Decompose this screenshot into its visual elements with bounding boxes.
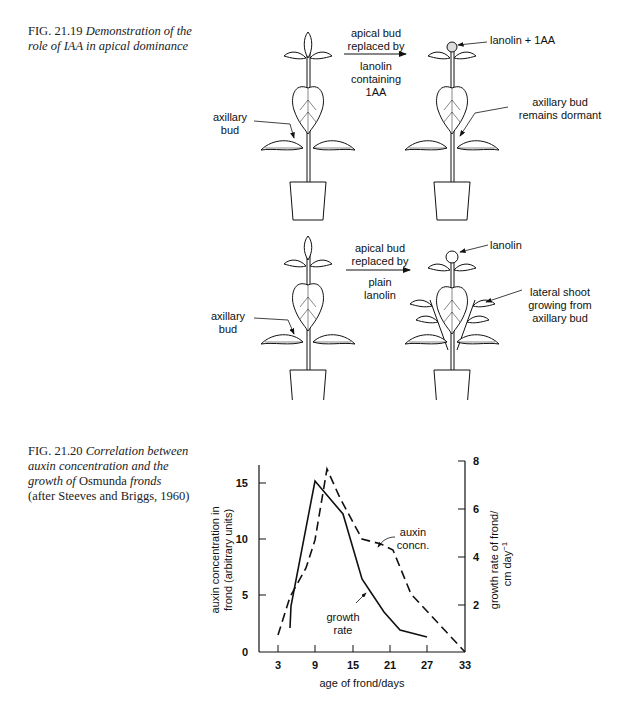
unit: cm day bbox=[501, 550, 513, 586]
x-tick-33: 33 bbox=[459, 659, 471, 671]
series-auxin-concentration bbox=[278, 469, 465, 652]
yl-tick-5: 5 bbox=[242, 589, 248, 601]
auxin-growth-chart: 3 9 15 21 27 33 0 5 10 15 2 4 6 8 age of… bbox=[0, 0, 617, 713]
yl-tick-10: 10 bbox=[236, 533, 248, 545]
x-axis-title: age of frond/days bbox=[319, 677, 405, 689]
yr-tick-2: 2 bbox=[473, 599, 479, 611]
y-right-title-line2: cm day−1 bbox=[500, 541, 513, 586]
y-left-title-line1: auxin concentration in bbox=[209, 506, 221, 613]
yr-tick-8: 8 bbox=[473, 455, 479, 467]
x-tick-27: 27 bbox=[421, 659, 433, 671]
unit-superscript: −1 bbox=[500, 541, 509, 551]
annotation-growth-line2: rate bbox=[334, 624, 353, 636]
annotation-growth-line1: growth bbox=[326, 611, 359, 623]
annotation-auxin-line1: auxin bbox=[400, 526, 426, 538]
yl-tick-15: 15 bbox=[236, 477, 248, 489]
x-tick-21: 21 bbox=[384, 659, 396, 671]
yl-tick-0: 0 bbox=[242, 646, 248, 658]
x-tick-15: 15 bbox=[347, 659, 359, 671]
x-tick-9: 9 bbox=[312, 659, 318, 671]
y-left-title-line2: frond (arbitrary units) bbox=[222, 509, 234, 611]
y-right-title-line1: growth rate of frond/ bbox=[488, 510, 500, 609]
yr-tick-4: 4 bbox=[473, 551, 480, 563]
x-tick-3: 3 bbox=[275, 659, 281, 671]
yr-tick-6: 6 bbox=[473, 503, 479, 515]
annotation-auxin-line2: concn. bbox=[397, 539, 429, 551]
